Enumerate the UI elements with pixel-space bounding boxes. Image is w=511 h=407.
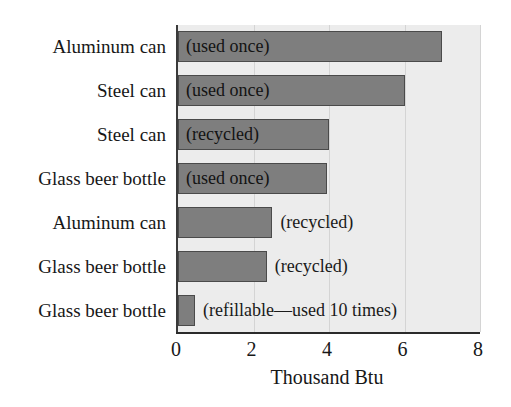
bar-row: (recycled) [178,207,480,238]
bar-chart: Aluminum canSteel canSteel canGlass beer… [0,0,511,407]
x-tick-label: 8 [473,336,483,362]
x-axis-title: Thousand Btu [176,366,478,389]
plot-area: (used once)(used once)(recycled)(used on… [176,25,480,332]
category-label: Aluminum can [53,207,166,238]
category-label: Aluminum can [53,31,166,62]
bar-row: (used once) [178,163,480,194]
bar-annotation: (used once) [186,163,269,194]
x-tick-label: 2 [247,336,257,362]
bar-row: (recycled) [178,251,480,282]
bar-annotation: (recycled) [275,251,348,282]
x-axis-tick-labels: 02468 [176,336,478,364]
bar-row: (used once) [178,31,480,62]
bar-annotation: (refillable—used 10 times) [203,295,397,326]
category-axis: Aluminum canSteel canSteel canGlass beer… [0,25,172,332]
x-axis-line [176,332,480,334]
bar-annotation: (used once) [186,75,269,106]
bar-annotation: (used once) [186,31,269,62]
x-tick-label: 6 [398,336,408,362]
bar [178,251,267,282]
bar [178,295,195,326]
bar-annotation: (recycled) [186,119,259,150]
category-label: Steel can [97,75,166,106]
bar-row: (refillable—used 10 times) [178,295,480,326]
x-tick-label: 0 [171,336,181,362]
category-label: Glass beer bottle [38,251,166,282]
bar-row: (recycled) [178,119,480,150]
bar [178,207,272,238]
bar-annotation: (recycled) [280,207,353,238]
category-label: Steel can [97,119,166,150]
bar-row: (used once) [178,75,480,106]
category-label: Glass beer bottle [38,163,166,194]
x-tick-label: 4 [322,336,332,362]
category-label: Glass beer bottle [38,295,166,326]
gridline [480,25,481,332]
